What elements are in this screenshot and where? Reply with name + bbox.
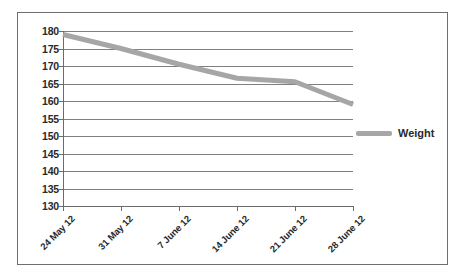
x-tick-mark-5 [353, 206, 354, 211]
y-tick-label-145: 145 [19, 148, 59, 159]
x-tick-mark-2 [179, 206, 180, 211]
x-tick-mark-4 [295, 206, 296, 211]
x-tick-label-5: 28 June 12 [325, 213, 366, 254]
y-tick-label-165: 165 [19, 78, 59, 89]
x-tick-label-4: 21 June 12 [267, 213, 308, 254]
series-line-weight [63, 31, 353, 206]
x-axis-line [63, 206, 353, 207]
x-tick-mark-0 [63, 206, 64, 211]
x-tick-label-2: 7 June 12 [155, 213, 193, 251]
x-tick-mark-3 [237, 206, 238, 211]
x-tick-label-1: 31 May 12 [96, 213, 135, 252]
y-tick-label-155: 155 [19, 113, 59, 124]
y-tick-label-135: 135 [19, 183, 59, 194]
y-tick-label-160: 160 [19, 96, 59, 107]
legend: Weight [356, 127, 434, 139]
y-tick-label-150: 150 [19, 131, 59, 142]
legend-label-weight: Weight [398, 127, 434, 139]
y-tick-label-140: 140 [19, 166, 59, 177]
y-tick-label-175: 175 [19, 43, 59, 54]
x-tick-label-0: 24 May 12 [38, 213, 77, 252]
y-tick-label-170: 170 [19, 61, 59, 72]
legend-swatch-weight [356, 131, 392, 136]
chart-frame: 180175170165160155150145140135130 24 May… [17, 12, 448, 265]
y-tick-label-130: 130 [19, 201, 59, 212]
y-axis-tick-labels: 180175170165160155150145140135130 [18, 31, 59, 206]
y-tick-label-180: 180 [19, 26, 59, 37]
x-tick-mark-1 [121, 206, 122, 211]
x-tick-label-3: 14 June 12 [209, 213, 250, 254]
